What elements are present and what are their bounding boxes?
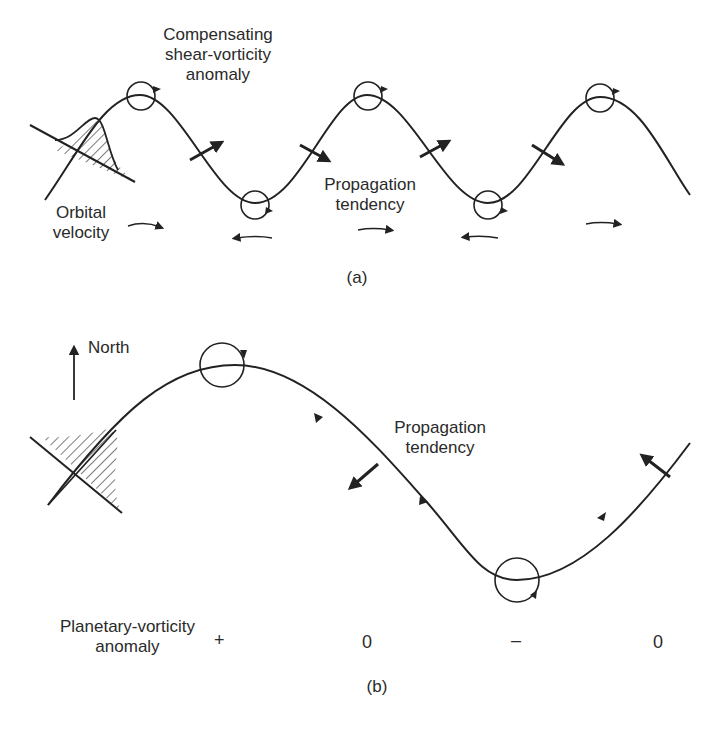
label-orbital-velocity: Orbital velocity xyxy=(50,203,112,243)
label-line: velocity xyxy=(50,223,112,243)
label-line: shear-vorticity xyxy=(138,45,298,65)
label-planetary-vorticity-anomaly: Planetary-vorticity anomaly xyxy=(40,617,215,657)
label-line: Orbital xyxy=(50,203,112,223)
label-line: Planetary-vorticity xyxy=(40,617,215,637)
label-compensating-anomaly: Compensating shear-vorticity anomaly xyxy=(138,25,298,85)
panel-b xyxy=(30,343,690,602)
label-propagation-tendency-a: Propagation tendency xyxy=(310,175,430,215)
label-line: anomaly xyxy=(138,65,298,85)
label-north: North xyxy=(88,338,130,358)
anomaly-sign-zero-1: 0 xyxy=(362,632,372,653)
label-line: anomaly xyxy=(40,637,215,657)
anomaly-sign-plus: + xyxy=(214,630,225,651)
orbital-arrows-a xyxy=(128,223,618,239)
label-propagation-tendency-b: Propagation tendency xyxy=(385,418,495,458)
label-line: Propagation xyxy=(385,418,495,438)
label-line: tendency xyxy=(385,438,495,458)
velocity-profile-a xyxy=(55,121,135,182)
caption-b: (b) xyxy=(355,677,399,697)
label-line: tendency xyxy=(310,195,430,215)
label-line: Compensating xyxy=(138,25,298,45)
caption-a: (a) xyxy=(335,268,379,288)
anomaly-sign-minus: – xyxy=(511,630,521,651)
label-line: Propagation xyxy=(310,175,430,195)
anomaly-sign-zero-2: 0 xyxy=(653,632,663,653)
propagation-arrows-a xyxy=(190,145,556,160)
